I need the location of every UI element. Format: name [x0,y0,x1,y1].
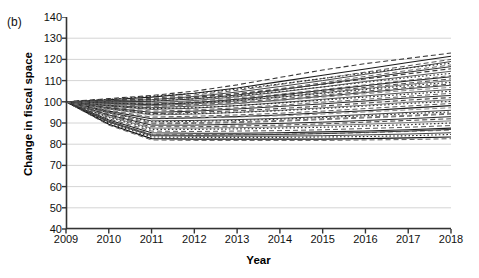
y-tick-label: 60 [32,181,62,193]
y-tick-label: 50 [32,202,62,214]
y-axis-tick-labels: 405060708090100110120130140 [30,17,62,229]
x-tick-label: 2016 [353,233,377,245]
x-tick-label: 2011 [140,233,164,245]
x-axis-title: Year [66,254,451,266]
x-tick-label: 2010 [97,233,121,245]
y-tick-label: 100 [32,96,62,108]
y-tick-label: 140 [32,11,62,23]
figure-panel-b: (b) Change in fiscal space 4050607080901… [0,0,479,278]
x-tick-label: 2012 [182,233,206,245]
panel-label: (b) [7,15,22,29]
line-chart-svg [60,17,453,236]
plot-area [60,17,445,229]
x-axis-tick-labels: 2009201020112012201320142015201620172018 [66,233,451,249]
x-tick-label: 2015 [310,233,334,245]
y-tick-label: 90 [32,117,62,129]
y-tick-label: 130 [32,32,62,44]
x-tick-label: 2017 [396,233,420,245]
x-tick-label: 2009 [54,233,78,245]
x-tick-label: 2018 [439,233,463,245]
x-tick-label: 2014 [268,233,292,245]
y-tick-label: 120 [32,53,62,65]
y-tick-label: 80 [32,138,62,150]
y-tick-label: 70 [32,159,62,171]
y-tick-label: 110 [32,75,62,87]
x-tick-label: 2013 [225,233,249,245]
